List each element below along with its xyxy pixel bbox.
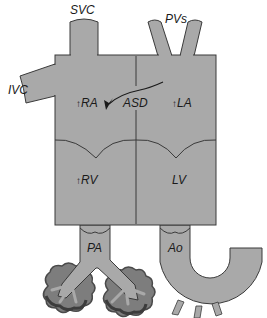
label-la: ↑LA <box>172 96 192 110</box>
label-asd: ASD <box>122 96 148 110</box>
label-rv: ↑RV <box>76 173 98 187</box>
asd-heart-diagram: SVC PVs IVC ↑RA ASD ↑LA ↑RV LV PA Ao <box>0 0 267 318</box>
label-pvs: PVs <box>165 12 187 26</box>
label-lv: LV <box>172 173 187 187</box>
label-svc: SVC <box>70 3 95 17</box>
label-ao: Ao <box>167 241 183 255</box>
superior-vena-cava <box>70 19 98 56</box>
label-ivc: IVC <box>8 83 28 97</box>
label-ra: ↑RA <box>76 96 98 110</box>
label-pa: PA <box>87 241 102 255</box>
aorta <box>160 225 262 318</box>
